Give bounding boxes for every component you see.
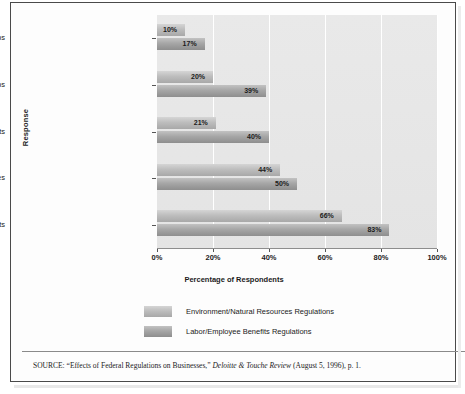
x-axis-line (157, 248, 437, 249)
bar-value-label: 50% (275, 178, 289, 190)
x-axis-tick-label: 100% (427, 253, 446, 262)
y-axis-tick-label: Elimination of jobs (0, 33, 5, 42)
y-axis-tick-label: Reduced profits (0, 220, 5, 229)
legend-swatch (144, 326, 172, 337)
bar (157, 38, 205, 50)
chart-row: 21%40% (157, 108, 437, 155)
source-prefix: SOURCE: “Effects of Federal Regulations … (33, 361, 212, 370)
chart-row: 66%83% (157, 201, 437, 248)
figure-frame: Response 10%17%20%39%21%40%44%50%66%83% … (10, 2, 456, 382)
chart-row: 10%17% (157, 15, 437, 62)
source-suffix: (August 5, 1996), p. 1. (291, 361, 361, 370)
plot-area: 10%17%20%39%21%40%44%50%66%83% (157, 15, 437, 248)
legend-label: Environment/Natural Resources Regulation… (186, 307, 334, 316)
bar-value-label: 17% (183, 38, 197, 50)
chart-row: 20%39% (157, 62, 437, 109)
bar (157, 224, 389, 236)
figure-panel: Response 10%17%20%39%21%40%44%50%66%83% … (0, 0, 465, 394)
source-divider (22, 351, 465, 352)
x-axis-tick (381, 249, 382, 252)
bar-value-label: 83% (367, 224, 381, 236)
bar-value-label: 21% (194, 117, 208, 129)
source-publication: Deloitte & Touche Review (212, 361, 291, 370)
page-shadow-right (458, 6, 461, 388)
x-axis-tick-label: 40% (261, 253, 276, 262)
chart-row: 44%50% (157, 155, 437, 202)
x-axis-title: Percentage of Respondents (11, 275, 457, 284)
chart: Response 10%17%20%39%21%40%44%50%66%83% … (11, 3, 457, 303)
bar-value-label: 39% (244, 85, 258, 97)
source-note: SOURCE: “Effects of Federal Regulations … (33, 361, 453, 370)
legend-swatch (144, 306, 172, 317)
bar-value-label: 66% (320, 210, 334, 222)
bar-value-label: 44% (258, 164, 272, 176)
y-axis-tick (152, 38, 156, 39)
gridline (437, 15, 438, 248)
bar-value-label: 20% (191, 71, 205, 83)
x-axis-tick-label: 20% (205, 253, 220, 262)
page-shadow-bottom (14, 385, 461, 388)
x-axis-tick (157, 249, 158, 252)
y-axis-tick (152, 85, 156, 86)
x-axis-tick (437, 249, 438, 252)
x-axis-tick-label: 80% (373, 253, 388, 262)
y-axis-tick-label: Lower employee benefits (0, 127, 5, 136)
y-axis-title: Response (21, 98, 30, 158)
legend-item: Labor/Employee Benefits Regulations (144, 321, 444, 341)
x-axis-tick (213, 249, 214, 252)
x-axis-tick-label: 0% (152, 253, 163, 262)
chart-legend: Environment/Natural Resources Regulation… (144, 301, 444, 341)
legend-label: Labor/Employee Benefits Regulations (186, 327, 312, 336)
x-axis-tick (269, 249, 270, 252)
y-axis-tick-label: Failure to add new jobs (0, 80, 5, 89)
y-axis-tick (152, 225, 156, 226)
y-axis-tick-label: Higher prices (0, 173, 5, 182)
x-axis-tick-label: 60% (317, 253, 332, 262)
y-axis-tick (152, 178, 156, 179)
y-axis-tick (152, 132, 156, 133)
bar (157, 210, 342, 222)
legend-item: Environment/Natural Resources Regulation… (144, 301, 444, 321)
x-axis-tick (325, 249, 326, 252)
bar-value-label: 10% (163, 24, 177, 36)
bar-value-label: 40% (247, 131, 261, 143)
